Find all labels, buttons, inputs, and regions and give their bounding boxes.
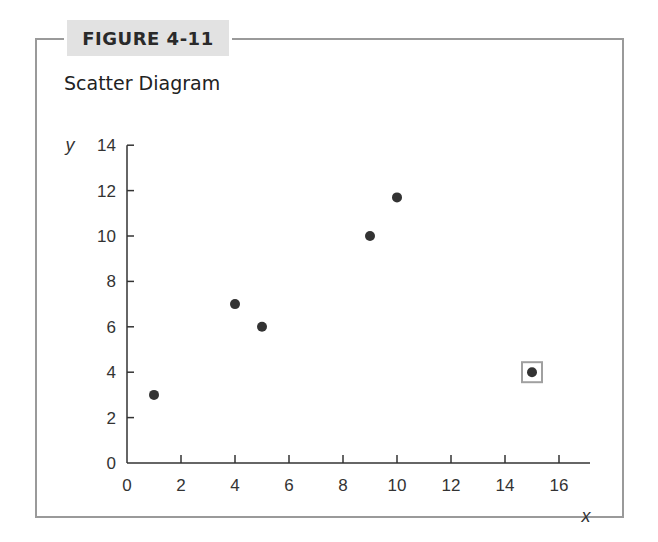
data-points — [149, 192, 542, 399]
x-tick-label: 6 — [284, 476, 293, 495]
y-tick-label: 14 — [97, 136, 116, 155]
x-tick-label: 8 — [338, 476, 347, 495]
y-tick-label: 2 — [107, 409, 116, 428]
x-tick-label: 12 — [442, 476, 461, 495]
y-tick-label: 12 — [97, 182, 116, 201]
data-point — [527, 367, 537, 377]
data-point — [365, 231, 375, 241]
x-tick-label: 16 — [550, 476, 569, 495]
y-axis-label: y — [64, 135, 76, 155]
y-tick-label: 0 — [107, 454, 116, 473]
x-tick-label: 14 — [496, 476, 515, 495]
x-tick-label: 10 — [388, 476, 407, 495]
y-tick-label: 6 — [107, 318, 116, 337]
x-tick-label: 2 — [176, 476, 185, 495]
y-tick-label: 4 — [107, 363, 116, 382]
scatter-plot: 024681012140246810121416yx — [0, 0, 658, 542]
data-point — [257, 322, 267, 332]
data-point — [230, 299, 240, 309]
axes: 024681012140246810121416yx — [64, 135, 592, 526]
x-tick-label: 0 — [122, 476, 131, 495]
x-tick-label: 4 — [230, 476, 239, 495]
y-tick-label: 10 — [97, 227, 116, 246]
data-point — [149, 390, 159, 400]
x-axis-label: x — [581, 506, 592, 526]
data-point — [392, 192, 402, 202]
y-tick-label: 8 — [107, 272, 116, 291]
